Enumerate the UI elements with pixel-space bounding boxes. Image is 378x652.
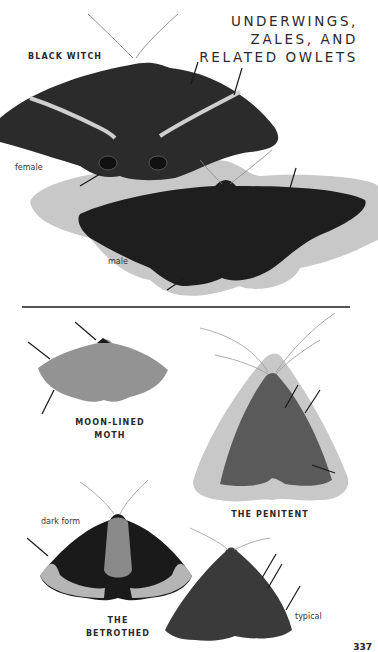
- species-name-line: THE: [68, 614, 168, 627]
- species-name-line: MOON-LINED: [60, 416, 160, 429]
- betrothed-typical-antennae: [190, 528, 270, 550]
- betrothed-typical: [165, 548, 292, 641]
- page-number: 337: [353, 642, 372, 652]
- form-label-dark-form: dark form: [41, 517, 80, 526]
- betrothed-dark-antennae: [80, 480, 148, 514]
- page-heading: UNDERWINGS, ZALES, AND RELATED OWLETS: [199, 12, 358, 66]
- species-name-the-penitent: THE PENITENT: [220, 508, 320, 521]
- female-eyespot-left: [99, 156, 117, 170]
- heading-line-2: ZALES, AND: [199, 30, 358, 48]
- betrothed-body: [104, 518, 132, 578]
- form-label-typical: typical: [295, 612, 322, 621]
- heading-line-1: UNDERWINGS,: [199, 12, 358, 30]
- species-name-the-betrothed: THE BETROTHED: [68, 614, 168, 640]
- species-name-line: THE PENITENT: [220, 508, 320, 521]
- species-name-line: MOTH: [60, 429, 160, 442]
- species-name-line: BLACK WITCH: [28, 50, 102, 63]
- form-label-male: male: [108, 257, 128, 266]
- species-name-line: BETROTHED: [68, 627, 168, 640]
- heading-line-3: RELATED OWLETS: [199, 48, 358, 66]
- species-name-black-witch: BLACK WITCH: [28, 50, 102, 63]
- moon-lined-moth: [38, 339, 168, 401]
- species-name-moon-lined-moth: MOON-LINED MOTH: [60, 416, 160, 442]
- section-divider: [22, 306, 350, 308]
- female-eyespot-right: [149, 156, 167, 170]
- form-label-female: female: [15, 163, 43, 172]
